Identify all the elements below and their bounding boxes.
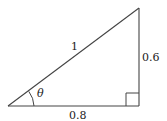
vertical-side-label: 0.6 (142, 51, 160, 64)
hypotenuse-label: 1 (71, 40, 78, 53)
horizontal-side-label: 0.8 (69, 109, 87, 121)
angle-arc (29, 91, 34, 106)
triangle-diagram: 1 0.6 0.8 θ (0, 0, 167, 121)
angle-label: θ (37, 87, 44, 100)
hypotenuse (8, 8, 139, 106)
right-angle-marker (126, 93, 139, 106)
